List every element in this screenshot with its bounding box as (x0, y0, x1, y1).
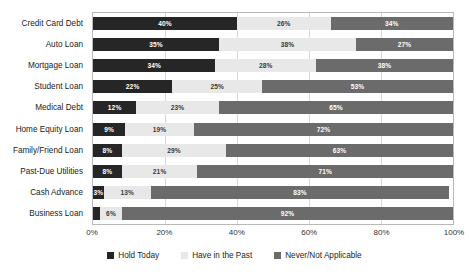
category-label: Credit Card Debt (0, 17, 88, 30)
bar-value-label: 63% (333, 147, 347, 154)
bar-value-label: 38% (281, 41, 295, 48)
bar-row: 3%13%83% (93, 186, 453, 199)
x-axis-tick-labels: 0%20%40%60%80%100% (92, 228, 454, 242)
bar-segment: 22% (93, 80, 172, 93)
x-tick-label: 100% (444, 228, 464, 237)
bar-row: 8%21%71% (93, 165, 453, 178)
bar-segment: 25% (172, 80, 262, 93)
legend-item[interactable]: Never/Not Applicable (274, 251, 361, 260)
category-axis-labels: Credit Card DebtAuto LoanMortgage LoanSt… (0, 13, 88, 224)
bar-value-label: 34% (147, 62, 161, 69)
legend-label: Never/Not Applicable (285, 251, 361, 260)
bar-value-label: 3% (94, 189, 104, 196)
bar-segment: 72% (194, 123, 453, 136)
bar-segment: 8% (93, 144, 122, 157)
x-tick-label: 20% (156, 228, 172, 237)
bar-segment: 21% (122, 165, 198, 178)
bar-segment: 40% (93, 17, 237, 30)
bar-segment: 83% (151, 186, 450, 199)
category-label: Home Equity Loan (0, 123, 88, 136)
bar-row: 35%38%27% (93, 38, 453, 51)
bar-segment: 23% (136, 101, 219, 114)
bar-value-label: 8% (103, 147, 113, 154)
bar-segment: 12% (93, 101, 136, 114)
legend-item[interactable]: Hold Today (107, 251, 159, 260)
legend-label: Have in the Past (192, 251, 252, 260)
bar-segment: 53% (262, 80, 453, 93)
legend-swatch-icon (107, 252, 114, 259)
bar-value-label: 38% (378, 62, 392, 69)
category-label: Cash Advance (0, 186, 88, 199)
bar-value-label: 6% (106, 210, 116, 217)
bar-value-label: 72% (317, 126, 331, 133)
bar-value-label: 28% (259, 62, 273, 69)
bar-segment: 26% (237, 17, 331, 30)
x-tick-label: 0% (86, 228, 98, 237)
bar-segment: 38% (316, 59, 453, 72)
bar-value-label: 19% (153, 126, 167, 133)
bar-segment: 9% (93, 123, 125, 136)
bar-row: 12%23%65% (93, 101, 453, 114)
stacked-bar-chart: Credit Card DebtAuto LoanMortgage LoanSt… (0, 0, 469, 279)
bar-value-label: 83% (293, 189, 307, 196)
legend-item[interactable]: Have in the Past (181, 251, 252, 260)
bar-value-label: 27% (398, 41, 412, 48)
bar-segment: 8% (93, 165, 122, 178)
bar-segment (93, 207, 100, 220)
bar-segment: 63% (226, 144, 453, 157)
bar-segment: 28% (215, 59, 316, 72)
bar-value-label: 92% (281, 210, 295, 217)
bar-row: 34%28%38% (93, 59, 453, 72)
bar-value-label: 23% (171, 104, 185, 111)
category-label: Past-Due Utilities (0, 165, 88, 178)
bar-segment: 71% (197, 165, 453, 178)
category-label: Medical Debt (0, 101, 88, 114)
bar-value-label: 35% (149, 41, 163, 48)
bar-segment: 65% (219, 101, 453, 114)
bar-value-label: 34% (385, 20, 399, 27)
legend-label: Hold Today (118, 251, 159, 260)
bar-rows: 40%26%34%35%38%27%34%28%38%22%25%53%12%2… (93, 13, 453, 224)
x-tick-label: 60% (301, 228, 317, 237)
bar-value-label: 22% (126, 83, 140, 90)
chart-legend: Hold TodayHave in the PastNever/Not Appl… (0, 251, 469, 260)
bar-value-label: 21% (153, 168, 167, 175)
legend-swatch-icon (181, 252, 188, 259)
bar-segment: 38% (219, 38, 356, 51)
legend-swatch-icon (274, 252, 281, 259)
bar-segment: 34% (93, 59, 215, 72)
bar-value-label: 71% (318, 168, 332, 175)
bar-row: 8%29%63% (93, 144, 453, 157)
bar-segment: 3% (93, 186, 104, 199)
category-label: Mortgage Loan (0, 59, 88, 72)
bar-value-label: 53% (351, 83, 365, 90)
bar-segment: 35% (93, 38, 219, 51)
category-label: Business Loan (0, 207, 88, 220)
bar-segment: 19% (125, 123, 193, 136)
bar-row: 40%26%34% (93, 17, 453, 30)
bar-value-label: 25% (210, 83, 224, 90)
bar-row: 22%25%53% (93, 80, 453, 93)
bar-segment: 29% (122, 144, 226, 157)
category-label: Auto Loan (0, 38, 88, 51)
bar-value-label: 65% (329, 104, 343, 111)
category-label: Family/Friend Loan (0, 144, 88, 157)
bar-row: 9%19%72% (93, 123, 453, 136)
bar-value-label: 12% (108, 104, 122, 111)
bar-segment: 27% (356, 38, 453, 51)
category-label: Student Loan (0, 80, 88, 93)
bar-value-label: 40% (158, 20, 172, 27)
x-tick-label: 40% (229, 228, 245, 237)
bar-segment: 34% (331, 17, 453, 30)
bar-value-label: 13% (120, 189, 134, 196)
bar-value-label: 9% (104, 126, 114, 133)
bar-segment: 6% (100, 207, 122, 220)
bar-value-label: 26% (277, 20, 291, 27)
bar-value-label: 29% (167, 147, 181, 154)
x-tick-label: 80% (374, 228, 390, 237)
bar-segment: 92% (122, 207, 453, 220)
bar-value-label: 8% (103, 168, 113, 175)
bar-row: 6%92% (93, 207, 453, 220)
bar-segment: 13% (104, 186, 151, 199)
